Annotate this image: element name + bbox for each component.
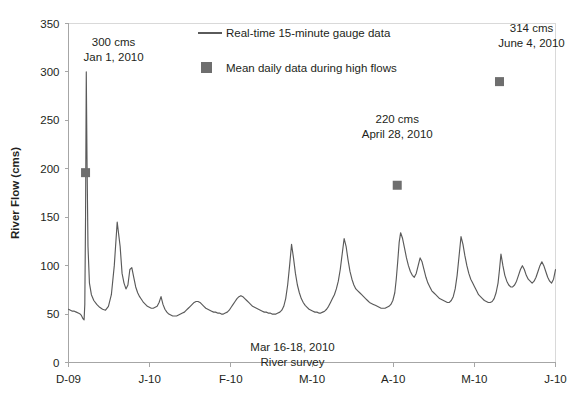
x-tick-label: J-10	[544, 373, 566, 385]
y-tick-label: 250	[40, 114, 59, 126]
y-tick-label: 200	[40, 163, 59, 175]
y-tick-label: 50	[47, 308, 60, 320]
annotation-value-april-peak: 220 cms	[375, 113, 419, 125]
annotation-value-jan-peak: 300 cms	[92, 36, 136, 48]
y-tick-label: 350	[40, 18, 59, 30]
x-tick-label: J-10	[138, 373, 160, 385]
legend-label-realtime: Real-time 15-minute gauge data	[226, 27, 391, 39]
river-flow-chart: 050100150200250300350 D-09J-10F-10M-10A-…	[0, 0, 587, 415]
mean-daily-marker	[495, 77, 504, 86]
y-tick-label: 150	[40, 211, 59, 223]
annotation-value-june-peak: 314 cms	[510, 22, 554, 34]
x-tick-label: M-10	[461, 373, 487, 385]
x-tick-label: M-10	[299, 373, 325, 385]
annotation-date-april-peak: April 28, 2010	[362, 128, 433, 140]
legend-label-meandaily: Mean daily data during high flows	[226, 62, 397, 74]
legend-square-swatch	[201, 62, 212, 73]
y-tick-label: 100	[40, 260, 59, 272]
mean-daily-marker	[81, 168, 90, 177]
y-tick-label: 300	[40, 66, 59, 78]
x-tick-label: F-10	[219, 373, 243, 385]
annotation-value-survey-note: Mar 16-18, 2010	[250, 341, 334, 353]
chart-canvas: 050100150200250300350 D-09J-10F-10M-10A-…	[0, 0, 587, 415]
annotation-date-survey-note: River survey	[261, 356, 325, 368]
annotation-date-june-peak: June 4, 2010	[498, 37, 565, 49]
y-tick-label: 0	[53, 357, 59, 369]
x-tick-label: D-09	[56, 373, 81, 385]
mean-daily-marker	[393, 181, 402, 190]
annotation-date-jan-peak: Jan 1, 2010	[83, 51, 143, 63]
y-axis-title: River Flow (cms)	[9, 147, 21, 239]
x-tick-label: A-10	[381, 373, 405, 385]
